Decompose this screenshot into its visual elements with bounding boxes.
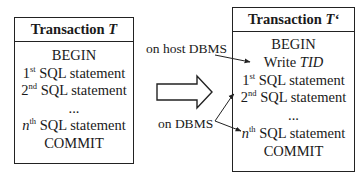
dbms-pointer-upper xyxy=(215,94,234,121)
transform-arrow-icon xyxy=(157,76,212,108)
host-dbms-pointer xyxy=(215,55,250,62)
dbms-pointer-lower xyxy=(215,121,241,131)
connector-overlay xyxy=(0,0,361,179)
